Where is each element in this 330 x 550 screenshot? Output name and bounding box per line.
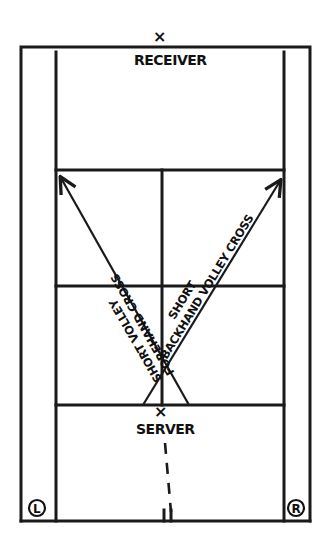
server-marker: × [154, 402, 167, 421]
serve-path-dashed [165, 443, 171, 512]
tennis-court-diagram: × RECEIVER SHORT VOLLEY FOREHAND CROSS S… [0, 0, 330, 550]
server-label: SERVER [136, 421, 195, 437]
forehand-shot-label: SHORT VOLLEY FOREHAND CROSS [96, 271, 178, 385]
receiver-label: RECEIVER [134, 52, 207, 68]
server: × SERVER [136, 402, 195, 437]
right-side-marker: R [288, 500, 304, 516]
receiver-marker: × [153, 27, 166, 46]
left-side-marker: L [29, 500, 45, 516]
right-side-label: R [292, 502, 301, 516]
left-side-label: L [33, 502, 41, 516]
